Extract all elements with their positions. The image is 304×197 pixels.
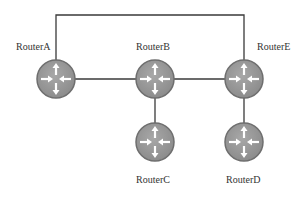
router-icon xyxy=(136,123,174,161)
router-a xyxy=(37,60,75,98)
router-icon xyxy=(37,60,75,98)
router-c-label: RouterC xyxy=(136,174,170,186)
router-b xyxy=(136,60,174,98)
router-icon xyxy=(225,60,263,98)
router-c xyxy=(136,123,174,161)
router-icon xyxy=(136,60,174,98)
router-d xyxy=(225,123,263,161)
router-d-label: RouterD xyxy=(226,174,260,186)
router-e xyxy=(225,60,263,98)
router-icon xyxy=(225,123,263,161)
router-b-label: RouterB xyxy=(136,41,170,53)
link-a-e xyxy=(56,15,244,60)
network-diagram xyxy=(0,0,304,197)
router-e-label: RouterE xyxy=(257,41,290,53)
router-a-label: RouterA xyxy=(16,41,50,53)
